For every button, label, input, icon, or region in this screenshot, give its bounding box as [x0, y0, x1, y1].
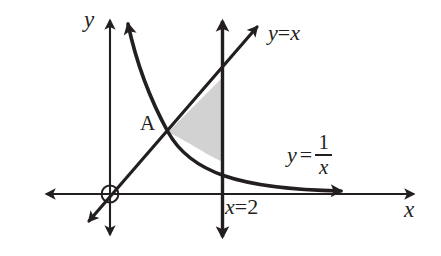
label-curve-lhs: y	[287, 144, 297, 166]
label-line-rhs: x	[290, 20, 300, 45]
x-axis-label: x	[404, 198, 414, 221]
label-line-lhs: y	[268, 20, 278, 45]
label-vline-lhs: x	[225, 194, 235, 219]
math-figure: y x y=x A x=2 y = 1 x	[0, 0, 441, 256]
label-vline-equals: =	[235, 194, 247, 219]
line-y-equals-x	[89, 27, 257, 221]
label-curve-equals: =	[300, 144, 312, 166]
label-line-y-equals-x: y=x	[268, 22, 300, 44]
fraction-one-over-x: 1 x	[315, 132, 332, 178]
label-curve-y-equals-one-over-x: y = 1 x	[287, 132, 332, 178]
fraction-numerator: 1	[315, 132, 332, 154]
label-vline-rhs: 2	[247, 194, 258, 219]
label-vertical-line: x=2	[225, 196, 258, 218]
point-a-label: A	[140, 113, 155, 134]
y-axis-label: y	[84, 8, 94, 31]
label-line-equals: =	[278, 20, 290, 45]
fraction-denominator: x	[316, 156, 331, 178]
diagram-canvas	[0, 0, 441, 256]
